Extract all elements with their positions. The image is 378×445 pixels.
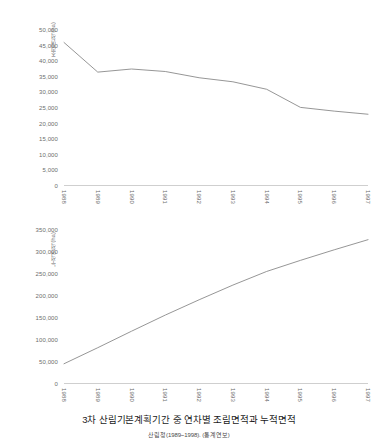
x-tick-label: 1995 [297,190,303,204]
x-tick-label: 1995 [297,388,303,402]
x-tick-label: 1994 [264,190,270,204]
x-tick-label: 1994 [264,388,270,402]
x-tick-label: 1993 [230,388,236,402]
x-tick-label: 1996 [331,190,337,204]
y-tick-label: 5,000 [42,167,58,174]
x-tick-label: 1992 [196,190,202,204]
figure-container: 05,00010,00015,00020,00025,00030,00035,0… [0,0,378,445]
y-tick-label: 50,000 [39,359,58,366]
chart-source-subtitle: 산림청(1989~1998). (통계연보) [0,430,378,439]
y-tick-label: 25,000 [39,105,58,112]
x-axis-line-annual [64,185,368,186]
y-tick-label: 30,000 [39,89,58,96]
chart-panel-cumulative-afforestation: 050,000100,000150,000200,000250,000300,0… [0,214,378,414]
x-tick-label: 1988 [61,190,67,204]
x-tick-label: 1997 [365,388,371,402]
x-tick-label: 1989 [95,190,101,204]
y-tick-label: 200,000 [36,293,58,300]
y-tick-label: 15,000 [39,136,58,143]
x-tick-label: 1989 [95,388,101,402]
x-axis-line-cumulative [64,383,368,384]
x-tick-label: 1993 [230,190,236,204]
x-tick-label: 1990 [129,388,135,402]
y-tick-label: 10,000 [39,151,58,158]
line-series-annual [64,30,368,186]
x-tick-label: 1991 [162,190,168,204]
y-tick-label: 20,000 [39,120,58,127]
x-tick-label: 1997 [365,190,371,204]
y-tick-label: 100,000 [36,337,58,344]
x-tick-label: 1988 [61,388,67,402]
x-tick-label: 1996 [331,388,337,402]
y-axis-title-annual: 조림면적(ha) [49,22,57,57]
y-tick-label: 35,000 [39,73,58,80]
x-tick-label: 1991 [162,388,168,402]
x-tick-label: 1992 [196,388,202,402]
y-tick-label: 40,000 [39,58,58,65]
plot-area-annual [64,30,368,186]
y-tick-label: 250,000 [36,271,58,278]
chart-title: 3차 산림기본계획기간 중 연차별 조림면적과 누적면적 [0,412,378,426]
plot-area-cumulative [64,230,368,384]
x-tick-label: 1990 [129,190,135,204]
y-tick-label: 150,000 [36,315,58,322]
y-tick-label: 0 [55,381,58,388]
y-tick-label: 0 [55,183,58,190]
y-axis-title-cumulative: 누적면적(ha) [49,232,57,267]
line-series-cumulative [64,230,368,384]
chart-panel-annual-afforestation: 05,00010,00015,00020,00025,00030,00035,0… [0,0,378,232]
